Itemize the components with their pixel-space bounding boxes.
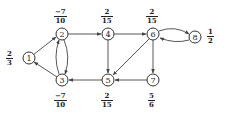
edge-6-8 <box>159 29 189 34</box>
node-3-value: −7 10 <box>54 92 67 109</box>
graph-canvas: 1 2 3 4 5 6 7 8 <box>0 0 227 117</box>
node-8-label: 8 <box>192 33 197 42</box>
node-7-label: 7 <box>150 76 155 85</box>
edge-1-2 <box>33 37 56 55</box>
node-2-value: −7 10 <box>54 8 67 25</box>
edge-3-1 <box>34 62 57 77</box>
edge-6-5 <box>113 39 149 75</box>
edge-3-2 <box>56 40 59 74</box>
node-7: 7 <box>147 74 159 86</box>
node-8-value: 1 2 <box>207 28 214 45</box>
node-1: 1 <box>23 52 35 64</box>
node-1-label: 1 <box>26 54 31 63</box>
node-7-value: 5 6 <box>148 92 155 109</box>
node-2: 2 <box>56 28 68 40</box>
node-3: 3 <box>56 74 68 86</box>
node-5-value: 2 15 <box>101 92 113 109</box>
node-8: 8 <box>189 31 201 43</box>
node-5-label: 5 <box>105 76 110 85</box>
node-6: 6 <box>147 28 159 40</box>
node-2-label: 2 <box>59 30 64 39</box>
node-6-value: 2 15 <box>146 8 158 25</box>
edge-8-6 <box>160 38 189 42</box>
node-1-value: 2 3 <box>6 50 13 67</box>
node-4-label: 4 <box>105 30 110 39</box>
node-5: 5 <box>102 74 114 86</box>
edge-2-3 <box>64 40 68 74</box>
node-3-label: 3 <box>59 76 64 85</box>
node-4-value: 2 15 <box>101 8 113 25</box>
node-6-label: 6 <box>150 30 155 39</box>
node-4: 4 <box>102 28 114 40</box>
